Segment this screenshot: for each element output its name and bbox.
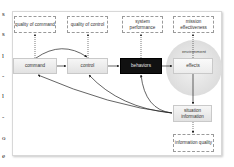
quality-of-control-box: quality of control — [67, 16, 108, 33]
situation-information-box: situation information — [173, 105, 212, 122]
control-box: control — [67, 58, 108, 74]
link-situation-behaviors — [141, 75, 172, 113]
behaviors-box: behaviors — [120, 58, 162, 74]
quality-of-command-box: quality of command — [14, 16, 56, 33]
information-quality-box: information quality — [173, 134, 214, 152]
link-situation-command — [38, 75, 172, 113]
mission-effectiveness-box: mission effectiveness — [173, 16, 214, 33]
system-performance-box: system performance — [122, 16, 163, 33]
link-situation-control — [89, 75, 172, 113]
effects-box: effects — [173, 58, 213, 74]
link-command-control-curve — [36, 49, 87, 58]
command-box: command — [13, 58, 57, 74]
